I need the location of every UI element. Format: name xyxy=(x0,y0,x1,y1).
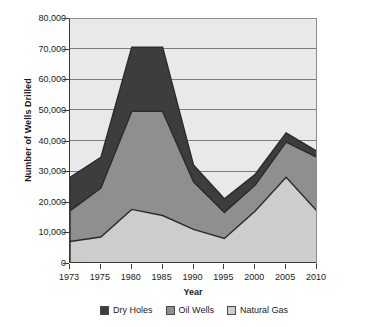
x-axis-tick-mark xyxy=(285,264,286,269)
y-axis-tick-mark xyxy=(63,18,69,19)
legend-label: Dry Holes xyxy=(113,305,153,315)
x-axis-tick-mark xyxy=(193,264,194,269)
legend-swatch-icon xyxy=(166,306,175,315)
legend-item[interactable]: Oil Wells xyxy=(166,305,214,315)
legend-label: Oil Wells xyxy=(179,305,214,315)
y-axis-tick-mark xyxy=(63,202,69,203)
y-axis-tick-labels: 010,00020,00030,00040,00050,00060,00070,… xyxy=(20,18,66,263)
x-axis-tick-label: 1995 xyxy=(213,272,233,282)
x-axis-tick-label: 2000 xyxy=(244,272,264,282)
y-axis-tick-label: 30,000 xyxy=(38,166,66,176)
y-axis-tick-label: 80,000 xyxy=(38,13,66,23)
x-axis-tick-mark xyxy=(254,264,255,269)
plot-area xyxy=(69,18,317,263)
y-axis-tick-mark xyxy=(63,171,69,172)
legend-swatch-icon xyxy=(227,306,236,315)
y-axis-tick-label: 70,000 xyxy=(38,44,66,54)
x-axis-tick-label: 1980 xyxy=(121,272,141,282)
chart-legend: Dry HolesOil WellsNatural Gas xyxy=(0,305,388,315)
plot-svg xyxy=(70,18,317,263)
x-axis-title: Year xyxy=(69,287,317,297)
plot-top-border xyxy=(69,18,317,19)
x-axis-tick-mark xyxy=(223,264,224,269)
x-axis-tick-mark xyxy=(316,264,317,269)
plot-right-border xyxy=(316,18,317,264)
x-axis-tick-mark xyxy=(162,264,163,269)
y-axis-tick-mark xyxy=(63,49,69,50)
y-axis-tick-label: 50,000 xyxy=(38,105,66,115)
y-axis-tick-mark xyxy=(63,232,69,233)
legend-item[interactable]: Natural Gas xyxy=(227,305,288,315)
x-axis-tick-label: 2010 xyxy=(306,272,326,282)
x-axis-tick-mark xyxy=(100,264,101,269)
y-axis-tick-label: 60,000 xyxy=(38,74,66,84)
y-axis-tick-label: 20,000 xyxy=(38,197,66,207)
y-axis-tick-mark xyxy=(63,79,69,80)
x-axis-tick-mark xyxy=(69,264,70,269)
legend-label: Natural Gas xyxy=(240,305,288,315)
y-axis-tick-label: 10,000 xyxy=(38,227,66,237)
x-axis-tick-mark xyxy=(131,264,132,269)
x-axis-tick-label: 2005 xyxy=(275,272,295,282)
x-axis-tick-label: 1975 xyxy=(90,272,110,282)
x-axis-tick-label: 1985 xyxy=(152,272,172,282)
legend-swatch-icon xyxy=(100,306,109,315)
y-axis-tick-label: 40,000 xyxy=(38,136,66,146)
y-axis-tick-mark xyxy=(63,141,69,142)
legend-item[interactable]: Dry Holes xyxy=(100,305,153,315)
stacked-area-chart: Number of Wells Drilled 010,00020,00030,… xyxy=(0,0,388,327)
x-axis-tick-label: 1990 xyxy=(182,272,202,282)
y-axis-tick-mark xyxy=(63,110,69,111)
x-axis-tick-label: 1973 xyxy=(59,272,79,282)
